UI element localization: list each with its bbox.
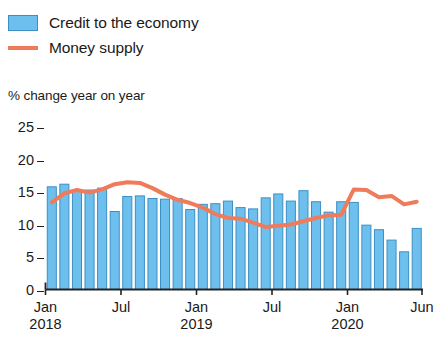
y-tick-mark [37,226,44,227]
bar [98,188,107,289]
x-tick-year-label: 2019 [180,316,212,333]
bar [324,212,333,289]
legend-item-credit-label: Credit to the economy [49,15,199,31]
x-tick-month-label: Jan [331,299,363,316]
bar [274,194,283,290]
bar [60,184,69,289]
bar [362,225,371,289]
x-tick-month-label: Jul [263,299,282,316]
y-tick-0: 0 [0,283,44,298]
y-tick-20: 20 [0,153,44,168]
x-tick-month-label: Jul [112,299,131,316]
bar [412,228,421,289]
bar [161,199,170,289]
bar [261,198,270,290]
y-tick-25: 25 [0,120,44,135]
bar [223,201,232,289]
bar [72,191,81,290]
y-tick-10: 10 [0,218,44,233]
x-tick-month-label: Jan [29,299,61,316]
bar [85,190,94,289]
legend-item-money-supply-label: Money supply [49,40,143,56]
x-tick-month-label: Jun [410,299,433,316]
bar-series-credit-to-the-economy [47,184,421,289]
bar [387,240,396,289]
x-tick-year-label: 2020 [331,316,363,333]
y-tick-label: 25 [18,119,34,135]
bar [286,201,295,289]
y-tick-mark [37,291,44,292]
x-tick-Jan-2020: Jan2020 [331,299,363,333]
x-tick-Jul: Jul [112,299,131,316]
line-swatch-icon [8,46,38,50]
y-tick-mark [37,128,44,129]
y-tick-label: 5 [26,249,34,265]
bar [186,210,195,290]
x-tick-year-label: 2018 [29,316,61,333]
y-tick-15: 15 [0,185,44,200]
bar [198,204,207,289]
bar [312,202,321,290]
bar [173,199,182,290]
bar [400,252,409,290]
x-tick-month-label: Jan [180,299,212,316]
bar [148,199,157,290]
chart-legend: Credit to the economy Money supply [8,10,308,60]
x-tick-Jul: Jul [263,299,282,316]
y-tick-label: 15 [18,184,34,200]
y-tick-mark [37,161,44,162]
y-tick-mark [37,258,44,259]
bar [110,212,119,290]
bar [374,230,383,290]
y-axis-title: % change year on year [8,88,145,103]
bar-swatch-icon [8,15,38,31]
x-tick-Jan-2019: Jan2019 [180,299,212,333]
bar [135,196,144,290]
y-tick-mark [37,193,44,194]
x-tick-Jan-2018: Jan2018 [29,299,61,333]
legend-item-credit: Credit to the economy [8,10,308,35]
y-tick-label: 10 [18,217,34,233]
bar [299,191,308,290]
y-tick-label: 20 [18,152,34,168]
x-tick-Jun: Jun [410,299,433,316]
bar [349,202,358,289]
bar [123,197,132,290]
legend-item-money-supply: Money supply [8,35,308,60]
y-tick-5: 5 [0,250,44,265]
y-tick-label: 0 [26,282,34,298]
